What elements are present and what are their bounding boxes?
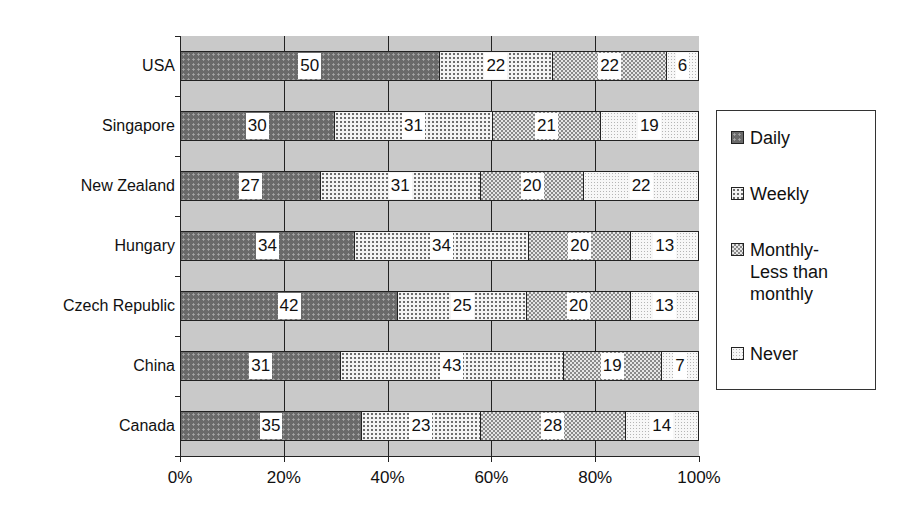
data-label: 23 <box>409 413 432 439</box>
category-label: New Zealand <box>81 177 175 195</box>
bar-segment-monthly: 20 <box>481 172 584 200</box>
bar-segment-weekly: 22 <box>440 52 554 80</box>
data-label: 13 <box>653 293 676 319</box>
data-label: 19 <box>601 353 624 379</box>
data-label: 20 <box>567 293 590 319</box>
legend-item-never: Never <box>731 343 798 365</box>
data-label: 20 <box>568 233 591 259</box>
bar-segment-weekly: 43 <box>341 352 563 380</box>
data-label: 13 <box>653 233 676 259</box>
x-tick-label: 0% <box>168 468 193 488</box>
data-label: 31 <box>389 173 412 199</box>
x-tick <box>388 456 389 462</box>
monthly-swatch-icon <box>731 243 744 256</box>
bar-segment-never: 22 <box>584 172 698 200</box>
bar-singapore: 30312119 <box>180 111 699 141</box>
bar-segment-daily: 30 <box>181 112 335 140</box>
category-label: Czech Republic <box>63 297 175 315</box>
bar-segment-never: 13 <box>631 232 698 260</box>
data-label: 20 <box>521 173 544 199</box>
legend-label: Daily <box>750 127 790 149</box>
bar-segment-never: 19 <box>601 112 698 140</box>
x-axis <box>180 456 700 457</box>
data-label: 22 <box>630 173 653 199</box>
category-label: Canada <box>119 417 175 435</box>
data-label: 34 <box>430 233 453 259</box>
bar-segment-never: 14 <box>626 412 698 440</box>
bar-usa: 5022226 <box>180 51 699 81</box>
x-tick <box>595 456 596 462</box>
data-label: 25 <box>451 293 474 319</box>
data-label: 31 <box>249 353 272 379</box>
data-label: 21 <box>535 113 558 139</box>
y-tick <box>175 156 181 157</box>
never-swatch-icon <box>731 347 744 360</box>
x-tick-label: 60% <box>474 468 508 488</box>
bar-segment-monthly: 20 <box>529 232 631 260</box>
bar-segment-daily: 50 <box>181 52 440 80</box>
legend-label: Weekly <box>750 183 809 205</box>
bar-segment-weekly: 31 <box>321 172 481 200</box>
bar-segment-weekly: 31 <box>335 112 494 140</box>
data-label: 43 <box>440 353 463 379</box>
x-tick <box>699 456 700 462</box>
data-label: 31 <box>402 113 425 139</box>
bar-segment-monthly: 28 <box>481 412 626 440</box>
data-label: 19 <box>638 113 661 139</box>
bar-hungary: 34342013 <box>180 231 699 261</box>
data-label: 6 <box>676 53 689 79</box>
category-label: Hungary <box>115 237 175 255</box>
bar-segment-daily: 34 <box>181 232 355 260</box>
weekly-swatch-icon <box>731 187 744 200</box>
x-tick-label: 40% <box>371 468 405 488</box>
data-label: 30 <box>246 113 269 139</box>
data-label: 22 <box>598 53 621 79</box>
stacked-bar-chart: 0%20%40%60%80%100% USASingaporeNew Zeala… <box>0 0 899 521</box>
bar-segment-never: 13 <box>631 292 698 320</box>
legend-label: Monthly- Less than monthly <box>750 239 828 305</box>
data-label: 50 <box>298 53 321 79</box>
bar-segment-daily: 31 <box>181 352 341 380</box>
legend-label: Never <box>750 343 798 365</box>
bar-china: 3143197 <box>180 351 699 381</box>
category-label: USA <box>142 57 175 75</box>
bar-segment-never: 6 <box>667 52 698 80</box>
data-label: 28 <box>541 413 564 439</box>
x-tick-label: 20% <box>267 468 301 488</box>
bar-segment-monthly: 22 <box>553 52 667 80</box>
data-label: 14 <box>650 413 673 439</box>
y-tick <box>175 276 181 277</box>
data-label: 22 <box>484 53 507 79</box>
data-label: 35 <box>260 413 283 439</box>
y-tick <box>175 216 181 217</box>
y-tick <box>175 96 181 97</box>
bar-canada: 35232814 <box>180 411 699 441</box>
x-tick-label: 100% <box>677 468 720 488</box>
legend-item-daily: Daily <box>731 127 790 149</box>
bar-segment-monthly: 19 <box>564 352 662 380</box>
x-tick <box>491 456 492 462</box>
y-tick <box>175 336 181 337</box>
bar-segment-monthly: 20 <box>527 292 630 320</box>
daily-swatch-icon <box>731 131 744 144</box>
data-label: 34 <box>256 233 279 259</box>
bar-new-zealand: 27312022 <box>180 171 699 201</box>
y-tick <box>175 36 181 37</box>
bar-segment-monthly: 21 <box>493 112 600 140</box>
bar-segment-daily: 42 <box>181 292 398 320</box>
bar-segment-weekly: 23 <box>362 412 481 440</box>
bar-segment-weekly: 34 <box>355 232 529 260</box>
category-label: China <box>133 357 175 375</box>
legend: Daily Weekly Monthly- Less than monthly … <box>716 110 876 390</box>
legend-item-monthly: Monthly- Less than monthly <box>731 239 828 305</box>
bar-segment-daily: 27 <box>181 172 321 200</box>
bar-segment-never: 7 <box>662 352 698 380</box>
data-label: 7 <box>673 353 686 379</box>
bar-segment-weekly: 25 <box>398 292 527 320</box>
y-tick <box>175 396 181 397</box>
data-label: 42 <box>278 293 301 319</box>
x-tick <box>284 456 285 462</box>
bar-czech-republic: 42252013 <box>180 291 699 321</box>
x-tick <box>180 456 181 462</box>
x-tick-label: 80% <box>578 468 612 488</box>
